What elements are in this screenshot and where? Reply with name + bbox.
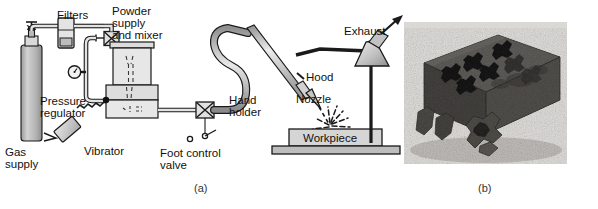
label-hand-holder-2: holder [229,106,261,118]
label-vibrator: Vibrator [84,145,124,157]
powder-supply-and-mixer [106,42,158,118]
label-powder-supply-2: supply [112,17,145,29]
label-workpiece: Workpiece [303,132,357,144]
abrasive-jet-machining-figure: Filters Powder supply and mixer Pressure… [0,0,598,209]
figure-container: Filters Powder supply and mixer Pressure… [0,0,598,209]
caption-a: (a) [194,182,207,194]
label-foot-control-valve-2: valve [160,159,187,171]
label-filters: Filters [57,9,89,21]
filters-unit [58,18,74,48]
label-hand-holder-1: Hand [229,94,257,106]
label-pressure-regulator-1: Pressure [40,95,86,107]
label-powder-supply-3: and mixer [112,29,163,41]
machine-table [272,146,400,154]
label-pressure-regulator-2: regulator [40,107,86,119]
label-foot-control-valve-1: Foot control [160,147,221,159]
label-gas-supply-1: Gas [5,146,26,158]
label-exhaust: Exhaust [344,25,386,37]
label-gas-supply-2: supply [5,158,38,170]
label-nozzle: Nozzle [296,93,331,105]
label-powder-supply-1: Powder [112,5,151,17]
label-hood: Hood [306,71,334,83]
caption-b: (b) [478,182,491,194]
